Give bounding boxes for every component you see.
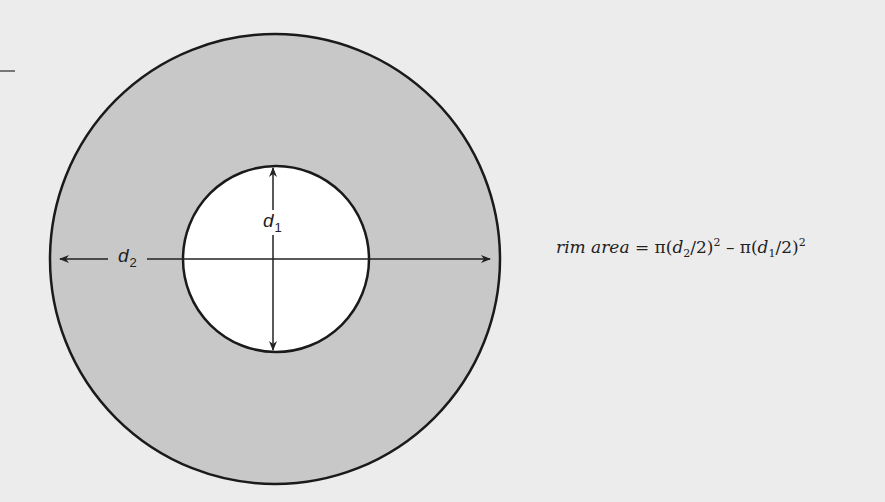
formula-minus: – π( xyxy=(720,237,757,257)
formula-mid1: /2) xyxy=(690,237,713,257)
formula-lhs: rim area xyxy=(556,237,630,257)
formula-d2: d xyxy=(672,237,683,257)
formula-sq2: 2 xyxy=(799,236,806,249)
formula-eq: = π( xyxy=(630,237,673,257)
formula-d1-sub: 1 xyxy=(769,247,776,260)
formula-d1: d xyxy=(758,237,769,257)
formula-mid2: /2) xyxy=(776,237,799,257)
rim-area-formula: rim area = π(d2/2)2 – π(d1/2)2 xyxy=(556,236,806,260)
